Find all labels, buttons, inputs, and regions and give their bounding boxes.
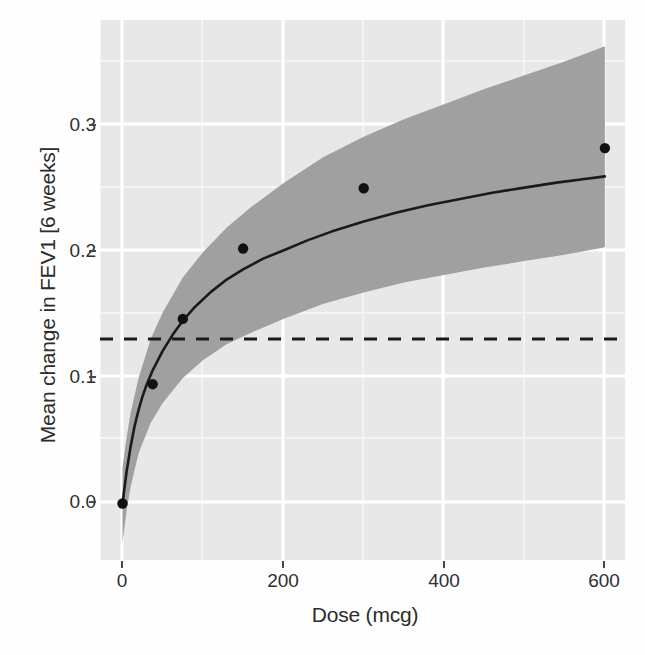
x-axis-ticks: 0 200 400 600 — [0, 0, 645, 655]
x-tick-label-0: 0 — [87, 570, 157, 592]
x-axis-title: Dose (mcg) — [100, 603, 630, 627]
x-tick-mark-3 — [603, 561, 605, 568]
x-tick-mark-2 — [443, 561, 445, 568]
x-tick-label-1: 200 — [248, 570, 318, 592]
x-tick-label-2: 400 — [409, 570, 479, 592]
chart-figure: Mean change in FEV1 [6 weeks] 0.3 0.2 0.… — [0, 0, 645, 655]
x-tick-mark-0 — [121, 561, 123, 568]
x-tick-mark-1 — [282, 561, 284, 568]
x-tick-label-3: 600 — [569, 570, 639, 592]
